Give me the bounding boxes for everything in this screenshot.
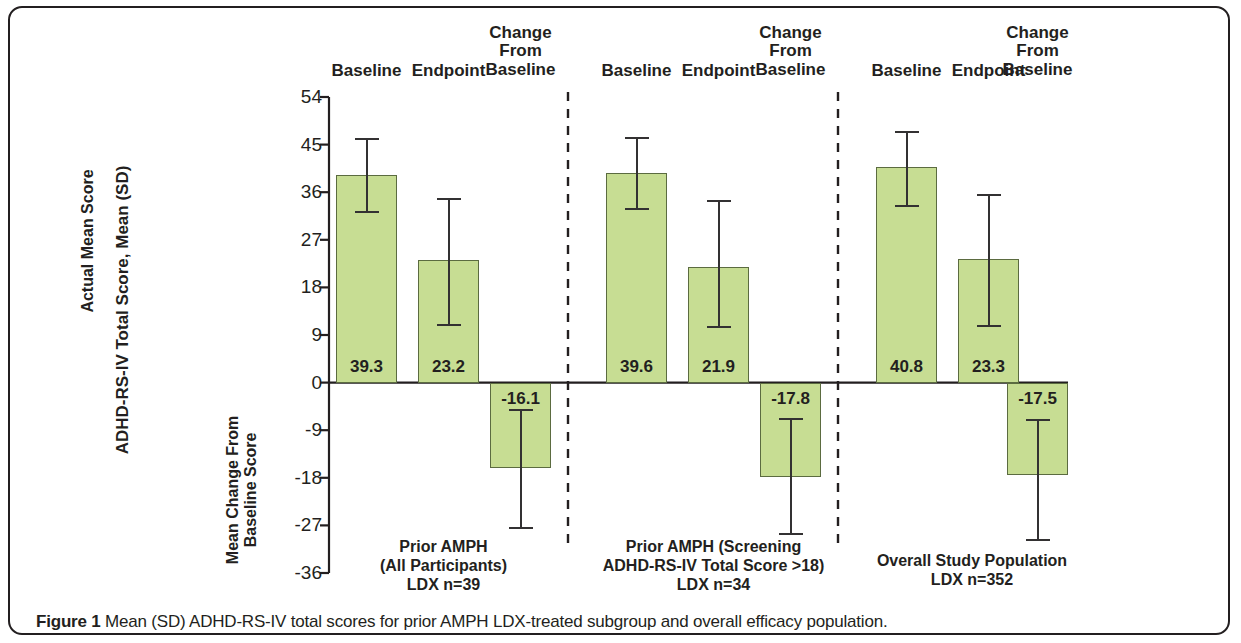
error-bar-cap-upper — [1026, 419, 1050, 421]
bar-value-label: 39.6 — [620, 357, 653, 377]
column-header-line: Baseline — [872, 62, 942, 80]
error-bar-cap-upper — [707, 200, 731, 202]
error-bar-stem — [790, 418, 792, 533]
group-caption: Prior AMPH (ScreeningADHD-RS-IV Total Sc… — [603, 537, 825, 595]
column-header-line: From — [756, 42, 826, 60]
column-header-baseline: Baseline — [872, 62, 942, 80]
column-header-line: From — [1003, 42, 1073, 60]
error-bar-cap-upper — [977, 194, 1001, 196]
error-bar-cap-lower — [977, 325, 1001, 327]
figure-caption-label: Figure 1 — [36, 612, 101, 631]
error-bar-cap-upper — [895, 131, 919, 133]
error-bar-cap-lower — [509, 527, 533, 529]
error-bar-stem — [520, 409, 522, 527]
group-caption-line: LDX n=39 — [380, 575, 507, 594]
figure-container: ADHD-RS-IV Total Score, Mean (SD) Actual… — [0, 0, 1241, 643]
bar-value-label: -17.8 — [771, 389, 810, 409]
error-bar-cap-upper — [625, 137, 649, 139]
error-bar-cap-lower — [437, 324, 461, 326]
column-header-line: Endpoint — [412, 62, 486, 80]
group-caption-line: LDX n=34 — [603, 575, 825, 594]
error-bar-stem — [988, 194, 990, 325]
error-bar-cap-lower — [355, 211, 379, 213]
bar-value-label: 40.8 — [890, 357, 923, 377]
error-bar-cap-lower — [707, 326, 731, 328]
figure-caption-text: Mean (SD) ADHD-RS-IV total scores for pr… — [101, 612, 888, 631]
error-bar-stem — [366, 138, 368, 210]
bar-value-label: 21.9 — [702, 357, 735, 377]
group-caption-line: Prior AMPH (Screening — [603, 537, 825, 556]
error-bar-stem — [448, 198, 450, 324]
column-header-line: Change — [756, 24, 826, 42]
group-caption-line: Prior AMPH — [380, 537, 507, 556]
column-header-line: Baseline — [486, 61, 556, 79]
error-bar-cap-upper — [355, 138, 379, 140]
column-header-endpoint: Endpoint — [682, 62, 756, 80]
group-caption-line: ADHD-RS-IV Total Score >18) — [603, 556, 825, 575]
column-header-endpoint: Endpoint — [412, 62, 486, 80]
column-header-line: Baseline — [1003, 61, 1073, 79]
figure-caption: Figure 1 Mean (SD) ADHD-RS-IV total scor… — [36, 612, 1206, 632]
error-bar-cap-lower — [779, 533, 803, 535]
bar-value-label: -16.1 — [501, 389, 540, 409]
bar-value-label: 23.3 — [972, 357, 1005, 377]
error-bar-cap-lower — [1026, 539, 1050, 541]
error-bar-cap-upper — [779, 418, 803, 420]
column-header-line: Baseline — [602, 62, 672, 80]
column-header-baseline: Baseline — [332, 62, 402, 80]
group-caption: Prior AMPH(All Participants)LDX n=39 — [380, 537, 507, 595]
column-header-line: Change — [1003, 24, 1073, 42]
error-bar-stem — [906, 131, 908, 206]
column-header-baseline: Baseline — [602, 62, 672, 80]
bar-value-label: 39.3 — [350, 357, 383, 377]
column-header-change-from-baseline: ChangeFromBaseline — [756, 24, 826, 79]
error-bar-cap-upper — [509, 409, 533, 411]
column-header-line: Change — [486, 24, 556, 42]
bar-value-label: -17.5 — [1018, 389, 1057, 409]
chart-plot-area: ADHD-RS-IV Total Score, Mean (SD) Actual… — [0, 0, 1241, 643]
error-bar-cap-lower — [625, 208, 649, 210]
column-header-line: Baseline — [756, 61, 826, 79]
error-bar-cap-lower — [895, 205, 919, 207]
error-bar-stem — [718, 200, 720, 326]
column-header-change-from-baseline: ChangeFromBaseline — [486, 24, 556, 79]
column-header-line: From — [486, 42, 556, 60]
group-caption-line: (All Participants) — [380, 556, 507, 575]
column-header-change-from-baseline: ChangeFromBaseline — [1003, 24, 1073, 79]
column-header-line: Baseline — [332, 62, 402, 80]
column-header-line: Endpoint — [682, 62, 756, 80]
error-bar-stem — [636, 137, 638, 208]
group-caption-line: LDX n=352 — [877, 570, 1067, 589]
error-bar-cap-upper — [437, 198, 461, 200]
group-caption: Overall Study PopulationLDX n=352 — [877, 551, 1067, 589]
bar-value-label: 23.2 — [432, 357, 465, 377]
group-caption-line: Overall Study Population — [877, 551, 1067, 570]
error-bar-stem — [1037, 419, 1039, 539]
